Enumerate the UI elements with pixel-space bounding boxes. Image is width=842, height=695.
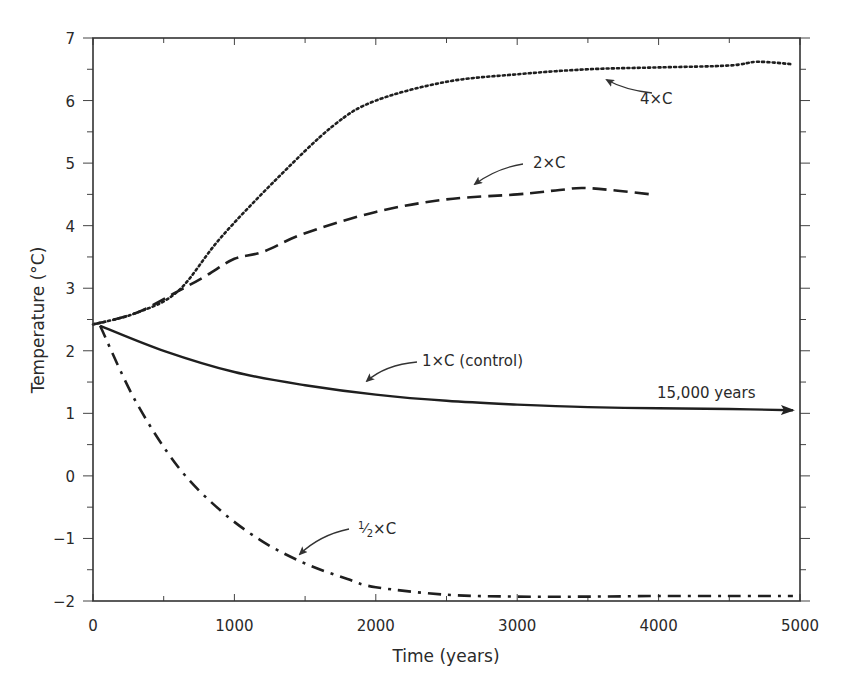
y-tick-label: 4 bbox=[65, 218, 75, 236]
annotation-2xc: 2×C bbox=[533, 154, 566, 172]
y-tick-label: −2 bbox=[53, 593, 75, 611]
x-tick-label: 0 bbox=[88, 617, 98, 635]
y-axis-label: Temperature (°C) bbox=[28, 247, 48, 395]
y-tick-label: 2 bbox=[65, 343, 75, 361]
series-group bbox=[93, 62, 793, 597]
x-tick-label: 2000 bbox=[357, 617, 395, 635]
x-tick-label: 5000 bbox=[781, 617, 819, 635]
annotation-half-xc: 1⁄2×C bbox=[358, 520, 396, 539]
arrow-1xc-icon bbox=[367, 362, 417, 381]
y-tick-label: 5 bbox=[65, 155, 75, 173]
x-tick-label: 3000 bbox=[498, 617, 536, 635]
plot-frame bbox=[93, 38, 800, 601]
x-tick-label: 4000 bbox=[640, 617, 678, 635]
y-tick-label: 6 bbox=[65, 93, 75, 111]
y-tick-label: 1 bbox=[65, 405, 75, 423]
y-tick-label: 0 bbox=[65, 468, 75, 486]
y-tick-label: −1 bbox=[53, 530, 75, 548]
x-tick-label: 1000 bbox=[215, 617, 253, 635]
axis-ticks: 010002000300040005000−2−101234567 bbox=[53, 30, 819, 635]
series-line-2 bbox=[93, 188, 652, 325]
series-line-1 bbox=[93, 62, 793, 325]
annotation-1xc-control: 1×C (control) bbox=[422, 352, 523, 370]
arrow-2xc-icon bbox=[475, 164, 523, 184]
chart-canvas: 010002000300040005000−2−101234567 Time (… bbox=[0, 0, 842, 695]
y-tick-label: 3 bbox=[65, 280, 75, 298]
annotation-15000-years: 15,000 years bbox=[657, 384, 756, 402]
half-xc-text: ×C bbox=[373, 520, 396, 538]
arrow-half-xc-icon bbox=[300, 529, 349, 554]
y-tick-label: 7 bbox=[65, 30, 75, 48]
x-axis-label: Time (years) bbox=[391, 646, 499, 666]
